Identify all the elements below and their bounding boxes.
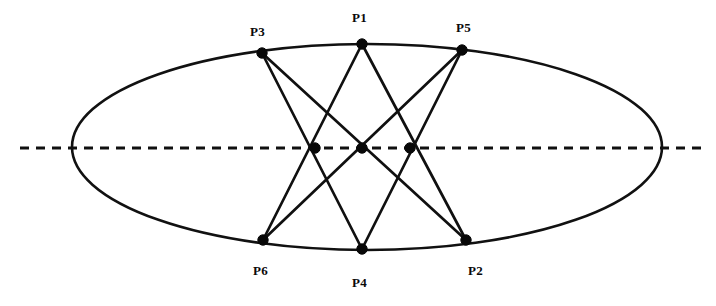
- point-label-p3: P3: [250, 25, 265, 38]
- pascal-theorem-figure: P1 P2 P3 P4 P5 P6: [0, 0, 716, 306]
- vertex-dot-p3: [257, 48, 267, 58]
- vertex-dot-p6: [258, 235, 268, 245]
- intersection-point-x3: [405, 143, 415, 153]
- point-label-p5: P5: [456, 21, 471, 34]
- point-label-p4: P4: [352, 276, 367, 289]
- vertex-dot-p5: [457, 45, 467, 55]
- intersection-point-x2: [357, 143, 367, 153]
- geometry-canvas: [0, 0, 716, 306]
- point-label-p1: P1: [352, 11, 367, 24]
- vertex-dot-p1: [357, 39, 367, 49]
- point-label-p2: P2: [468, 264, 483, 277]
- point-label-p6: P6: [253, 264, 268, 277]
- vertex-dot-p4: [357, 244, 367, 254]
- vertex-dot-p2: [461, 235, 471, 245]
- chord-p1-p6: [263, 44, 362, 240]
- intersection-point-x1: [310, 143, 320, 153]
